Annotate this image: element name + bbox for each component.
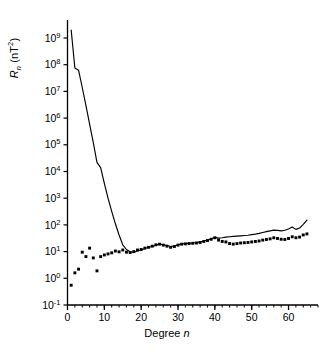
- data-point: [132, 250, 135, 253]
- y-tick-exponent: 8: [56, 57, 60, 66]
- y-tick-mantissa: 10: [45, 85, 57, 97]
- data-point: [129, 251, 132, 254]
- data-point: [81, 251, 84, 254]
- y-tick-mantissa: 10: [45, 165, 57, 177]
- data-point: [298, 236, 301, 239]
- data-point: [151, 245, 154, 248]
- y-axis-tick-label: 108: [45, 57, 61, 70]
- y-tick-exponent: 2: [56, 218, 60, 227]
- data-point: [166, 245, 169, 248]
- y-tick-mantissa: 10: [45, 192, 57, 204]
- data-point: [162, 244, 165, 247]
- y-axis-label-units-open: (nT: [8, 46, 20, 66]
- y-tick-exponent: -1: [54, 298, 61, 307]
- data-point: [92, 256, 95, 259]
- data-point: [199, 241, 202, 244]
- data-point: [261, 239, 264, 242]
- y-axis-label: Rn (nT2): [6, 0, 23, 118]
- data-point: [202, 240, 205, 243]
- data-point: [280, 238, 283, 241]
- data-point: [239, 242, 242, 245]
- data-point: [236, 242, 239, 245]
- data-point: [221, 240, 224, 243]
- data-point: [302, 234, 305, 237]
- data-point: [228, 242, 231, 245]
- data-point: [210, 238, 213, 241]
- y-tick-exponent: 3: [56, 191, 60, 200]
- series-line-model-spectrum-line: [71, 30, 307, 252]
- y-tick-mantissa: 10: [45, 245, 57, 257]
- x-axis-label-italic: n: [184, 327, 190, 339]
- data-point: [177, 244, 180, 247]
- data-point: [269, 237, 272, 240]
- data-point: [96, 269, 99, 272]
- data-point: [283, 238, 286, 241]
- y-axis-label-subscript: n: [14, 66, 23, 70]
- x-axis-tick-label: 30: [172, 311, 184, 323]
- data-point: [173, 245, 176, 248]
- data-point: [99, 255, 102, 258]
- x-axis-tick-label: 10: [98, 311, 110, 323]
- y-axis-tick-label: 100: [45, 271, 61, 284]
- y-axis-label-symbol: R: [8, 70, 20, 78]
- figure-container: 10-1100101102103104105106107108109010203…: [0, 0, 334, 352]
- data-point: [213, 236, 216, 239]
- data-point: [243, 241, 246, 244]
- y-axis-tick-label: 101: [45, 244, 61, 257]
- y-axis-label-units-exponent: 2: [6, 42, 15, 46]
- data-point: [140, 248, 143, 251]
- x-axis-label: Degree n: [0, 327, 334, 339]
- y-axis-tick-label: 102: [45, 218, 61, 231]
- data-point: [180, 243, 183, 246]
- y-tick-exponent: 7: [56, 84, 60, 93]
- y-tick-exponent: 6: [56, 111, 60, 120]
- y-axis-label-units-close: ): [8, 38, 20, 42]
- y-axis-tick-label: 104: [45, 164, 61, 177]
- y-tick-exponent: 0: [56, 271, 60, 280]
- y-tick-mantissa: 10: [45, 32, 57, 44]
- data-point: [195, 242, 198, 245]
- y-tick-mantissa: 10: [42, 299, 54, 311]
- data-point: [206, 239, 209, 242]
- data-point: [188, 242, 191, 245]
- data-point: [77, 268, 80, 271]
- data-point: [158, 243, 161, 246]
- data-point: [125, 251, 128, 254]
- x-axis-tick-label: 0: [65, 311, 71, 323]
- data-series-layer: [70, 30, 309, 287]
- data-point: [154, 243, 157, 246]
- data-point: [70, 284, 73, 287]
- data-point: [265, 238, 268, 241]
- y-axis-tick-label: 10-1: [42, 298, 60, 311]
- data-point: [232, 243, 235, 246]
- data-point: [88, 247, 91, 250]
- y-tick-exponent: 1: [56, 244, 60, 253]
- data-point: [121, 249, 124, 252]
- data-point: [73, 271, 76, 274]
- y-tick-exponent: 5: [56, 137, 60, 146]
- data-point: [294, 236, 297, 239]
- data-point: [276, 237, 279, 240]
- x-axis-tick-label: 50: [246, 311, 258, 323]
- axis-layer: [64, 20, 319, 310]
- y-tick-exponent: 9: [56, 31, 60, 40]
- y-axis-tick-label: 105: [45, 137, 61, 150]
- data-point: [103, 253, 106, 256]
- y-axis-tick-label: 109: [45, 31, 61, 44]
- y-axis-tick-label: 107: [45, 84, 61, 97]
- data-point: [224, 240, 227, 243]
- data-point: [184, 242, 187, 245]
- data-point: [107, 252, 110, 255]
- data-point: [291, 235, 294, 238]
- data-point: [143, 247, 146, 250]
- chart-plot-area: 10-1100101102103104105106107108109010203…: [0, 0, 334, 352]
- data-point: [272, 236, 275, 239]
- data-point: [191, 242, 194, 245]
- y-tick-mantissa: 10: [45, 138, 57, 150]
- data-point: [250, 240, 253, 243]
- data-point: [114, 250, 117, 253]
- data-point: [247, 241, 250, 244]
- y-tick-exponent: 4: [56, 164, 60, 173]
- y-tick-mantissa: 10: [45, 58, 57, 70]
- data-point: [118, 250, 121, 253]
